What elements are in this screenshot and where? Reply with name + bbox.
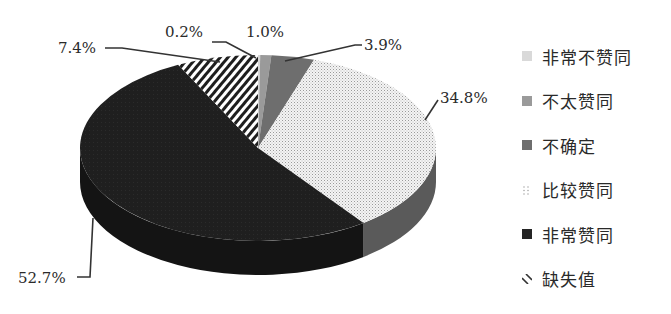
legend: 非常不赞同 不太赞同 不确定 比较赞同 非常赞同 缺失值 bbox=[522, 34, 632, 301]
label-strongly-disagree: 0.2% bbox=[165, 23, 203, 41]
legend-label: 非常不赞同 bbox=[542, 44, 632, 69]
legend-item-agree: 比较赞同 bbox=[522, 168, 632, 213]
leader-line-strongly-agree bbox=[77, 218, 93, 277]
swatch-black-icon bbox=[522, 229, 532, 239]
legend-item-disagree: 不太赞同 bbox=[522, 79, 632, 124]
leader-line-missing bbox=[105, 48, 220, 62]
legend-item-strongly-agree: 非常赞同 bbox=[522, 212, 632, 257]
legend-label: 比较赞同 bbox=[542, 177, 614, 202]
label-missing: 7.4% bbox=[58, 39, 96, 57]
swatch-light-gray-icon bbox=[522, 51, 532, 61]
legend-item-strongly-disagree: 非常不赞同 bbox=[522, 34, 632, 79]
swatch-dark-gray-icon bbox=[522, 140, 532, 150]
label-disagree: 1.0% bbox=[246, 23, 284, 41]
swatch-mid-gray-icon bbox=[522, 96, 532, 106]
label-strongly-agree: 52.7% bbox=[18, 269, 66, 287]
pie-group bbox=[80, 55, 436, 275]
legend-label: 缺失值 bbox=[542, 266, 596, 291]
legend-item-uncertain: 不确定 bbox=[522, 123, 632, 168]
label-uncertain: 3.9% bbox=[364, 36, 402, 54]
swatch-stripes-icon bbox=[522, 274, 532, 284]
leader-line-agree bbox=[425, 100, 438, 120]
legend-label: 不太赞同 bbox=[542, 88, 614, 113]
legend-item-missing: 缺失值 bbox=[522, 257, 632, 302]
label-agree: 34.8% bbox=[440, 89, 488, 107]
legend-label: 不确定 bbox=[542, 133, 596, 158]
legend-label: 非常赞同 bbox=[542, 222, 614, 247]
swatch-dotted-icon bbox=[522, 185, 532, 195]
leader-line-uncertain bbox=[285, 45, 362, 61]
